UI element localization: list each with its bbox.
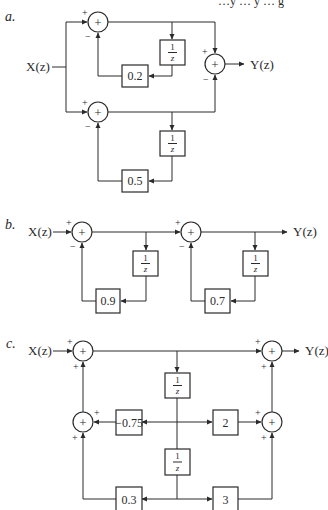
- diagram-a-output-summer: + + −: [202, 46, 225, 85]
- diagram-b-input-label: X(z): [28, 224, 52, 239]
- diagram-c-gain-0.3: 0.3: [116, 487, 142, 510]
- svg-text:+: +: [261, 432, 267, 443]
- diagram-b-summer-2: + + −: [175, 217, 201, 252]
- svg-text:z: z: [170, 53, 175, 63]
- svg-text:−: −: [85, 31, 91, 42]
- diagram-a-bottom-delay: 1 z: [160, 131, 185, 156]
- svg-text:0.5: 0.5: [128, 174, 143, 188]
- svg-text:+: +: [73, 361, 79, 372]
- svg-text:z: z: [143, 264, 148, 274]
- diagram-c-delay-1: 1 z: [165, 373, 190, 398]
- diagram-c-gain-neg0.75: −0.75: [115, 410, 143, 435]
- svg-text:1: 1: [170, 42, 175, 52]
- svg-text:+: +: [211, 57, 218, 72]
- diagram-c-right-mid-summer: + + +: [255, 407, 282, 443]
- diagram-c-label: c.: [6, 336, 16, 351]
- svg-text:+: +: [94, 105, 101, 120]
- svg-text:1: 1: [175, 451, 180, 461]
- diagram-a: a. X(z) + + − 1 z 0.2: [5, 7, 274, 192]
- svg-text:+: +: [66, 217, 72, 228]
- svg-text:+: +: [187, 225, 194, 240]
- diagram-b-delay-2: 1 z: [243, 251, 268, 276]
- diagram-c-gain-3: 3: [213, 487, 238, 510]
- svg-text:+: +: [67, 336, 73, 347]
- svg-text:+: +: [268, 344, 275, 359]
- svg-text:+: +: [255, 336, 261, 347]
- svg-text:+: +: [78, 225, 85, 240]
- svg-text:+: +: [268, 415, 275, 430]
- diagram-a-input-label: X(z): [26, 59, 50, 74]
- diagram-a-label: a.: [5, 9, 16, 24]
- diagram-b-summer-1: + + −: [66, 217, 92, 252]
- diagram-c-input-summer: + + +: [67, 336, 93, 372]
- svg-text:+: +: [72, 432, 78, 443]
- svg-text:1: 1: [170, 133, 175, 143]
- diagram-a-output-label: Y(z): [250, 57, 274, 72]
- svg-text:z: z: [170, 144, 175, 154]
- diagram-c-left-mid-summer: + + +: [72, 407, 100, 443]
- svg-text:−: −: [70, 241, 76, 252]
- diagram-c-output-label: Y(z): [305, 343, 328, 358]
- diagram-b-output-label: Y(z): [293, 224, 317, 239]
- diagram-a-top-delay: 1 z: [160, 40, 185, 65]
- svg-text:z: z: [175, 463, 180, 473]
- svg-text:+: +: [202, 46, 208, 57]
- svg-text:−: −: [85, 121, 91, 132]
- svg-text:0.3: 0.3: [122, 493, 137, 507]
- svg-text:+: +: [79, 415, 86, 430]
- diagram-a-top-summer: + + −: [82, 7, 108, 42]
- diagram-b-label: b.: [5, 217, 16, 232]
- svg-text:0.7: 0.7: [210, 294, 225, 308]
- svg-text:0.9: 0.9: [101, 294, 116, 308]
- svg-text:2: 2: [223, 416, 229, 430]
- diagram-b-gain-0.7: 0.7: [205, 289, 230, 313]
- svg-text:−: −: [203, 74, 209, 85]
- svg-text:z: z: [175, 386, 180, 396]
- diagram-c: c. X(z) + + + + + + Y(z) 1 z 1: [6, 336, 328, 510]
- svg-text:z: z: [253, 264, 258, 274]
- diagram-c-gain-2: 2: [213, 410, 238, 435]
- diagram-c-input-label: X(z): [28, 343, 52, 358]
- diagram-b-delay-1: 1 z: [133, 251, 158, 276]
- block-diagrams: …y … y … g a. X(z) + + − 1 z 0.2: [0, 0, 328, 510]
- diagram-a-gain-0.2: 0.2: [122, 65, 148, 87]
- svg-text:1: 1: [175, 375, 180, 385]
- svg-text:+: +: [94, 407, 100, 418]
- svg-text:1: 1: [253, 253, 258, 263]
- diagram-b-gain-0.9: 0.9: [96, 289, 120, 313]
- svg-text:+: +: [94, 15, 101, 30]
- diagram-a-gain-0.5: 0.5: [122, 170, 148, 192]
- svg-text:1: 1: [143, 253, 148, 263]
- svg-text:3: 3: [223, 493, 229, 507]
- diagram-c-delay-2: 1 z: [165, 449, 190, 475]
- svg-text:0.2: 0.2: [128, 69, 143, 83]
- svg-text:+: +: [79, 344, 86, 359]
- diagram-b: b. X(z) + + − 1 z 0.9 + + −: [5, 217, 317, 313]
- header-fragment: …y … y … g: [218, 0, 284, 8]
- svg-text:+: +: [175, 217, 181, 228]
- svg-text:−0.75: −0.75: [115, 416, 143, 430]
- svg-text:−: −: [179, 241, 185, 252]
- svg-text:+: +: [261, 361, 267, 372]
- diagram-c-output-summer: + + +: [255, 336, 282, 372]
- svg-text:+: +: [255, 407, 261, 418]
- svg-text:+: +: [82, 97, 88, 108]
- diagram-a-bottom-summer: + + −: [82, 97, 108, 132]
- svg-text:+: +: [82, 7, 88, 18]
